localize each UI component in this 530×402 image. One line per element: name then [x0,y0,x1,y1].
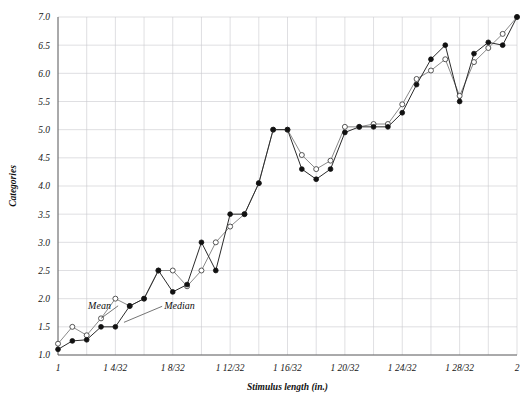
data-point-mean [299,153,304,158]
data-point-median [127,304,132,309]
data-point-mean [70,324,75,329]
data-point-median [113,324,118,329]
data-point-median [342,130,347,135]
data-point-median [285,127,290,132]
x-axis-title: Stimulus length (in.) [247,382,328,393]
x-tick-label: 1 12/32 [216,363,245,373]
annotation-label-median: Median [163,300,195,311]
x-tick-label: 1 28/32 [445,363,474,373]
y-tick-label: 2.0 [38,294,50,304]
y-axis-tick-labels: 1.01.52.02.53.03.54.04.55.05.56.06.57.0 [37,12,50,360]
data-point-mean [428,68,433,73]
data-point-median [99,324,104,329]
y-tick-label: 4.0 [38,181,50,191]
data-point-median [256,181,261,186]
y-tick-label: 4.5 [38,153,50,163]
data-point-mean [342,124,347,129]
data-point-median [414,82,419,87]
data-point-median [400,110,405,115]
y-tick-label: 6.5 [38,41,50,51]
data-point-mean [199,268,204,273]
data-point-median [457,99,462,104]
chart-container: 1.01.52.02.53.03.54.04.55.05.56.06.57.01… [0,0,530,402]
data-point-median [515,15,520,20]
data-point-median [199,240,204,245]
data-point-median [357,124,362,129]
data-point-median [271,127,276,132]
data-point-median [213,268,218,273]
data-point-median [185,282,190,287]
x-tick-label: 1 24/32 [388,363,417,373]
y-tick-label: 5.0 [38,125,50,135]
data-point-median [486,40,491,45]
y-tick-label: 7.0 [38,12,50,22]
y-tick-label: 2.5 [38,266,50,276]
y-tick-label: 1.5 [38,322,50,332]
y-tick-label: 1.0 [38,350,50,360]
data-point-mean [471,60,476,65]
y-tick-label: 3.0 [37,238,50,248]
x-tick-label: 1 4/32 [103,363,127,373]
data-point-median [371,124,376,129]
data-point-median [84,337,89,342]
data-point-median [156,268,161,273]
y-tick-label: 5.5 [38,97,50,107]
x-tick-label: 1 16/32 [273,363,302,373]
annotation-label-mean: Mean [87,300,111,311]
data-point-median [142,296,147,301]
data-point-mean [443,57,448,62]
data-point-median [472,51,477,56]
data-point-mean [314,167,319,172]
data-point-mean [457,93,462,98]
x-tick-label: 2 [515,363,520,373]
x-tick-label: 1 [56,363,61,373]
data-point-mean [170,268,175,273]
data-point-median [429,57,434,62]
x-tick-label: 1 20/32 [330,363,359,373]
data-point-median [170,290,175,295]
data-point-mean [400,102,405,107]
y-tick-label: 6.0 [38,69,50,79]
data-point-median [56,347,61,352]
data-point-median [443,43,448,48]
line-chart: 1.01.52.02.53.03.54.04.55.05.56.06.57.01… [0,0,530,402]
data-point-median [228,212,233,217]
data-point-mean [213,240,218,245]
data-point-median [314,177,319,182]
data-point-median [500,43,505,48]
data-point-mean [228,224,233,229]
data-point-mean [113,296,118,301]
data-point-mean [500,31,505,36]
data-point-median [70,339,75,344]
data-point-median [328,167,333,172]
data-point-mean [414,76,419,81]
y-axis-title: Categories [8,165,18,207]
data-point-mean [486,45,491,50]
x-axis-tick-labels: 11 4/321 8/321 12/321 16/321 20/321 24/3… [56,363,520,373]
x-tick-label: 1 8/32 [161,363,185,373]
data-point-median [386,124,391,129]
data-point-median [299,167,304,172]
data-point-mean [56,341,61,346]
y-tick-label: 3.5 [37,210,50,220]
data-point-median [242,212,247,217]
data-point-mean [328,158,333,163]
